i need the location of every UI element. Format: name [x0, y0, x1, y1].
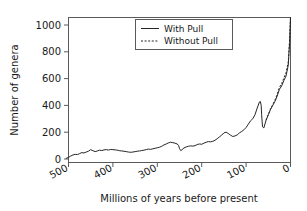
y-tick-label: 400 [42, 100, 61, 111]
chart-legend: With Pull Without Pull [136, 20, 233, 50]
y-axis-title: Number of genera [9, 44, 20, 135]
y-axis-tick-labels: 0 200 400 600 800 1000 [36, 20, 61, 165]
x-tick-label: 500 [47, 162, 69, 181]
y-tick-label: 600 [42, 73, 61, 84]
legend-label-with-pull: With Pull [164, 24, 203, 34]
x-tick-label: 0 [281, 162, 292, 175]
y-axis-ticks [64, 25, 69, 159]
line-chart: 0 200 400 600 800 1000 Number of genera … [0, 0, 307, 211]
x-tick-label: 400 [92, 162, 114, 181]
x-axis-title: Millions of years before present [100, 193, 258, 204]
x-tick-label: 300 [136, 162, 158, 181]
y-tick-label: 0 [55, 154, 61, 165]
chart-figure: 0 200 400 600 800 1000 Number of genera … [0, 0, 307, 211]
series-line-without-pull [266, 17, 290, 120]
x-tick-label: 100 [225, 162, 247, 181]
y-tick-label: 1000 [36, 20, 61, 31]
y-tick-label: 200 [42, 127, 61, 138]
legend-label-without-pull: Without Pull [164, 36, 218, 46]
y-tick-label: 800 [42, 46, 61, 57]
x-tick-label: 200 [181, 162, 203, 181]
x-axis-tick-labels: 500 400 300 200 100 0 [47, 162, 291, 181]
